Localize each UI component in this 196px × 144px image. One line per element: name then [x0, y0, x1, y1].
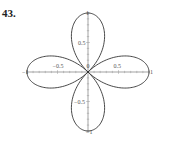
x-tick-label: 1 [150, 69, 153, 75]
x-tick-label: 0.5 [114, 63, 122, 69]
polar-rose-plot: −1−0.500.5110.5−0.5−1 [0, 0, 196, 144]
x-tick-label: −0.5 [53, 63, 64, 69]
origin-label: 0 [87, 63, 90, 69]
y-tick-label: −0.5 [74, 99, 85, 105]
y-tick-label: −1 [86, 129, 92, 135]
y-tick-label: 0.5 [78, 40, 86, 46]
